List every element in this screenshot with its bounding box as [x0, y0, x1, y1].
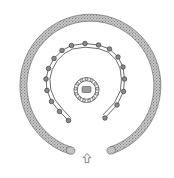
- post-hole: [49, 99, 54, 104]
- post-hole: [96, 43, 101, 48]
- post-hole: [116, 55, 121, 60]
- post-hole: [66, 118, 71, 123]
- post-hole: [57, 109, 62, 114]
- central-post: [90, 79, 93, 82]
- central-post: [82, 99, 85, 102]
- post-hole: [107, 47, 112, 52]
- central-post: [76, 82, 79, 85]
- site-plan-canvas: [0, 0, 174, 178]
- post-hole: [45, 88, 50, 93]
- post-hole: [52, 56, 57, 61]
- post-hole: [121, 89, 126, 94]
- post-hole: [83, 41, 88, 46]
- post-hole: [44, 77, 49, 82]
- central-post: [78, 97, 81, 100]
- post-hole: [103, 116, 108, 121]
- post-hole: [60, 48, 65, 53]
- central-post: [74, 87, 77, 90]
- post-hole: [69, 43, 74, 48]
- post-hole: [46, 66, 51, 71]
- post-hole: [121, 65, 126, 70]
- central-pit: [82, 87, 91, 93]
- central-post: [85, 78, 88, 81]
- central-post: [96, 87, 99, 90]
- central-post: [88, 99, 91, 102]
- central-post: [94, 82, 97, 85]
- post-hole: [122, 77, 127, 82]
- central-post: [92, 97, 95, 100]
- post-hole: [115, 103, 120, 108]
- central-post: [95, 92, 98, 95]
- central-post: [75, 92, 78, 95]
- site-plan-figure: [0, 0, 174, 178]
- central-post: [80, 79, 83, 82]
